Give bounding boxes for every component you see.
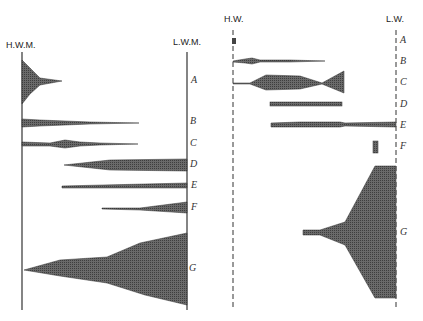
- zone-bar-b: [233, 58, 325, 64]
- zonation-diagram: [0, 0, 423, 321]
- zone-bar-e: [62, 183, 187, 188]
- zone-bar-a: [232, 38, 236, 44]
- zone-bar-f: [102, 202, 187, 213]
- zone-bar-c: [233, 71, 344, 93]
- zone-bar-e: [271, 122, 396, 127]
- zone-bar-d: [270, 102, 342, 106]
- zone-bar-f: [373, 141, 378, 153]
- zone-bar-a: [22, 60, 62, 104]
- zone-bar-g: [24, 233, 187, 305]
- zone-bar-c: [22, 140, 138, 148]
- zone-bar-d: [64, 159, 187, 171]
- zone-bar-g: [303, 166, 396, 298]
- zone-bar-b: [22, 119, 139, 127]
